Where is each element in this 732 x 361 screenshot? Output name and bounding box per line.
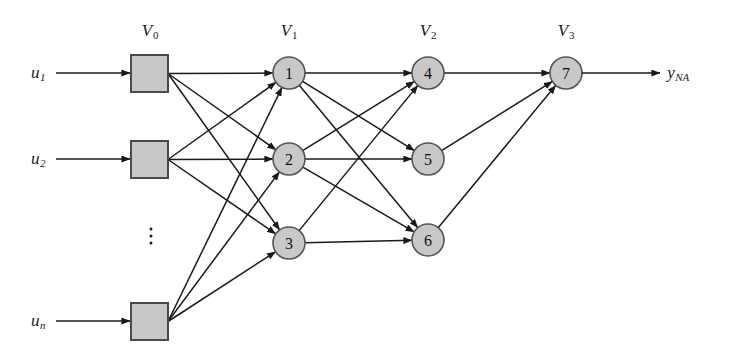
neuron-4 xyxy=(412,57,444,89)
layer-label-base-V0: V xyxy=(142,21,153,40)
edge-n6-to-n7 xyxy=(438,85,556,227)
input-label-u1: u1 xyxy=(31,63,45,83)
input-label-un: un xyxy=(31,311,45,331)
input-label-sub-u1: 1 xyxy=(40,71,46,83)
layer-label-V3: V3 xyxy=(558,21,574,41)
input-label-base-u2: u xyxy=(31,149,40,168)
input-label-sub-un: n xyxy=(40,319,46,331)
network-diagram xyxy=(0,0,732,361)
output-label-sub: NA xyxy=(675,71,689,83)
edge-box-n-to-n2 xyxy=(168,172,279,322)
layer-label-base-V3: V xyxy=(558,21,569,40)
input-label-u2: u2 xyxy=(31,149,45,169)
input-node-box-1 xyxy=(131,55,168,92)
edge-box-n-to-n1 xyxy=(168,87,282,321)
edge-box-1-to-n2 xyxy=(168,74,276,150)
input-label-base-u1: u xyxy=(31,63,40,82)
input-label-sub-u2: 2 xyxy=(40,157,46,169)
nodes-group xyxy=(273,57,582,259)
layer-label-base-V2: V xyxy=(420,21,431,40)
input-node-box-2 xyxy=(131,141,168,178)
layer-label-sub-V2: 2 xyxy=(431,29,437,41)
edge-box-2-to-n3 xyxy=(168,160,276,234)
io-arrows-group xyxy=(56,73,660,321)
neuron-7 xyxy=(550,57,582,89)
edge-box-n-to-n3 xyxy=(168,252,276,322)
input-boxes-group xyxy=(131,55,168,340)
edge-n2-to-n6 xyxy=(303,167,414,232)
layer-label-sub-V3: 3 xyxy=(569,29,575,41)
layer-label-V0: V0 xyxy=(142,21,158,41)
input-ellipsis-icon xyxy=(150,228,153,245)
neuron-5 xyxy=(412,143,444,175)
layer-label-sub-V1: 1 xyxy=(292,29,298,41)
layer-label-base-V1: V xyxy=(281,21,292,40)
neuron-6 xyxy=(412,224,444,256)
layer-label-V1: V1 xyxy=(281,21,297,41)
neuron-1 xyxy=(273,57,305,89)
layer-label-sub-V0: 0 xyxy=(153,29,159,41)
edges-group xyxy=(168,73,556,322)
input-label-base-un: u xyxy=(31,311,40,330)
edge-n3-to-n6 xyxy=(305,240,412,242)
input-node-box-n xyxy=(131,303,168,340)
output-label-base: y xyxy=(667,63,675,82)
figure-canvas: 1234567u1u2unyNAV0V1V2V3 xyxy=(0,0,732,361)
output-label: yNA xyxy=(667,63,689,83)
neuron-2 xyxy=(273,143,305,175)
edge-n5-to-n7 xyxy=(442,81,553,150)
neuron-3 xyxy=(273,227,305,259)
layer-label-V2: V2 xyxy=(420,21,436,41)
